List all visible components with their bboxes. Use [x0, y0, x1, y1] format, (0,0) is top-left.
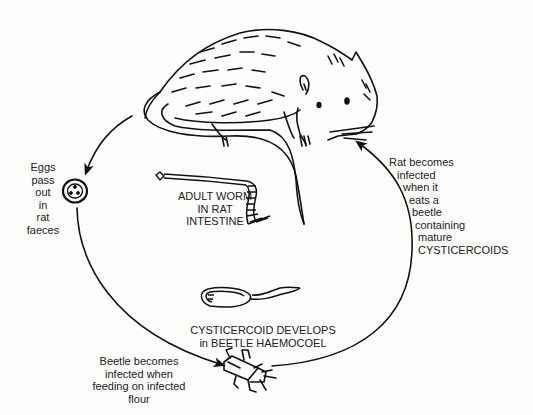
cysticercoid-line: in BEETLE HAEMOCOEL [183, 337, 343, 350]
beetle-infection-line: Beetle becomes [84, 355, 194, 368]
rat-infection-line: containing [389, 219, 529, 232]
cysticercoid-label: CYSTICERCOID DEVELOPS in BEETLE HAEMOCOE… [183, 324, 343, 349]
beetle-infection-line: infected when [84, 368, 194, 381]
beetle-icon [224, 348, 276, 392]
adult-worm-label: ADULT WORM IN RAT INTESTINE [160, 190, 270, 228]
rat-infection-label: Rat becomes infected when it eats a beet… [389, 156, 529, 256]
adult-worm-line: INTESTINE [160, 215, 270, 228]
adult-worm-line: ADULT WORM [160, 190, 270, 203]
rat-infection-line: eats a [389, 194, 529, 207]
eggs-label-line: pass [24, 174, 62, 187]
egg-icon [63, 180, 87, 203]
beetle-infection-line: flour [84, 393, 194, 406]
beetle-infection-label: Beetle becomes infected when feeding on … [84, 355, 194, 405]
rat-infection-line: when it [389, 181, 529, 194]
beetle-infection-line: feeding on infected [84, 380, 194, 393]
rat-infection-line: infected [389, 169, 529, 182]
eggs-label-line: Eggs [24, 161, 62, 174]
rat-infection-line: mature [389, 231, 529, 244]
cysticercoid-icon [201, 287, 300, 307]
rat-infection-line: beetle [389, 206, 529, 219]
eggs-label-line: faeces [24, 224, 62, 237]
eggs-label-line: in [24, 199, 62, 212]
rat-infection-line: CYSTICERCOIDS [389, 244, 529, 257]
adult-worm-line: IN RAT [160, 203, 270, 216]
eggs-label-line: out [24, 186, 62, 199]
eggs-label: Eggs pass out in rat faeces [24, 161, 62, 236]
life-cycle-diagram: Eggs pass out in rat faeces Rat becomes … [0, 0, 533, 415]
rat-infection-line: Rat becomes [389, 156, 529, 169]
cysticercoid-line: CYSTICERCOID DEVELOPS [183, 324, 343, 337]
eggs-label-line: rat [24, 211, 62, 224]
arrow-rat-to-eggs [87, 116, 132, 170]
